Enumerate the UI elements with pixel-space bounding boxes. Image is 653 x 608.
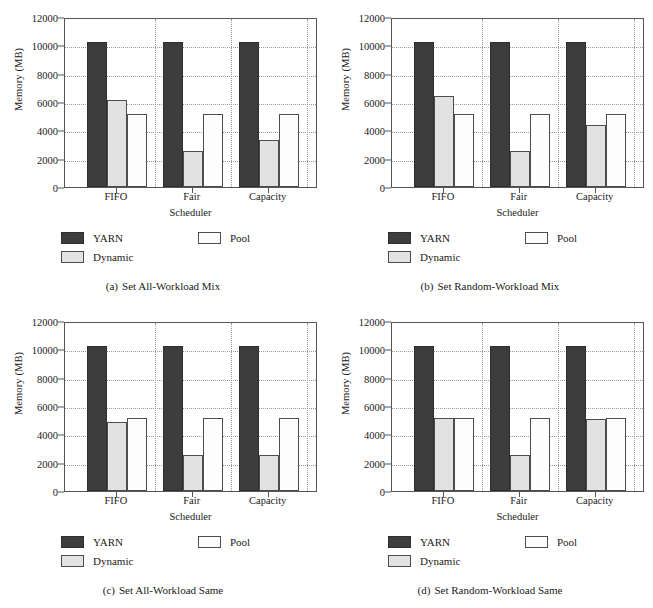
bar-c-fifo-pool	[127, 418, 147, 491]
bar-c-fifo-dynamic	[107, 422, 127, 491]
plot-area-a: Memory (MB)020004000600080001000012000FI…	[0, 0, 326, 212]
y-tick-label: 4000	[325, 430, 385, 441]
y-tick-mark	[385, 322, 391, 323]
bar-a-fifo-yarn	[87, 42, 107, 187]
legend-label-dynamic: Dynamic	[420, 555, 460, 567]
chart-panel-b: Memory (MB)020004000600080001000012000FI…	[327, 0, 653, 304]
y-tick-label: 4000	[0, 430, 58, 441]
legend-label-yarn: YARN	[93, 536, 123, 548]
bar-c-fair-pool	[203, 418, 223, 491]
x-tick-label-fifo: FIFO	[76, 191, 156, 202]
y-tick-label: 6000	[0, 402, 58, 413]
legend-label-dynamic: Dynamic	[93, 251, 133, 263]
bar-d-fifo-yarn	[414, 346, 434, 491]
y-tick-mark	[385, 188, 391, 189]
y-tick-mark	[58, 103, 64, 104]
y-tick-mark	[58, 463, 64, 464]
bar-d-fair-pool	[530, 418, 550, 491]
y-tick-mark	[58, 407, 64, 408]
y-tick-mark	[385, 378, 391, 379]
y-tick-label: 2000	[325, 458, 385, 469]
bar-b-fifo-yarn	[414, 42, 434, 187]
bar-d-capacity-pool	[606, 418, 626, 491]
y-tick-mark	[58, 46, 64, 47]
y-tick-label: 4000	[0, 126, 58, 137]
legend-item-dynamic: Dynamic	[388, 251, 460, 263]
y-tick-label: 4000	[325, 126, 385, 137]
legend-item-yarn: YARN	[61, 232, 123, 244]
x-gridline	[155, 19, 156, 187]
figure-four-panel-bar-charts: Memory (MB)020004000600080001000012000FI…	[0, 0, 653, 608]
y-tick-mark	[385, 46, 391, 47]
legend-item-pool: Pool	[198, 232, 250, 244]
legend-item-yarn: YARN	[388, 536, 450, 548]
legend-label-pool: Pool	[230, 232, 250, 244]
caption-text-b: Set Random-Workload Mix	[437, 280, 559, 292]
legend-item-dynamic: Dynamic	[61, 251, 133, 263]
y-tick-label: 12000	[0, 13, 58, 24]
x-tick-label-fifo: FIFO	[403, 495, 483, 506]
plot-frame-a	[64, 18, 317, 188]
bar-a-fair-pool	[203, 114, 223, 187]
legend-swatch-yarn	[388, 536, 411, 548]
x-tick-label-fair: Fair	[152, 495, 232, 506]
bar-c-fair-yarn	[163, 346, 183, 491]
x-axis-label-a: Scheduler	[64, 207, 317, 218]
bar-b-capacity-dynamic	[586, 125, 606, 187]
bar-b-fifo-pool	[454, 114, 474, 187]
x-gridline	[634, 19, 635, 187]
legend-item-yarn: YARN	[388, 232, 450, 244]
bar-c-capacity-pool	[279, 418, 299, 491]
y-tick-mark	[58, 74, 64, 75]
plot-frame-d	[391, 322, 644, 492]
bar-a-capacity-yarn	[239, 42, 259, 187]
legend-swatch-pool	[198, 536, 221, 548]
y-tick-label: 6000	[0, 98, 58, 109]
y-tick-mark	[58, 378, 64, 379]
y-tick-label: 10000	[325, 41, 385, 52]
legend-c: YARNPoolDynamic	[0, 536, 326, 580]
bar-d-fair-yarn	[490, 346, 510, 491]
plot-area-b: Memory (MB)020004000600080001000012000FI…	[327, 0, 653, 212]
legend-swatch-yarn	[388, 232, 411, 244]
caption-tag-b: (b)	[421, 280, 434, 292]
y-tick-mark	[385, 463, 391, 464]
y-tick-label: 8000	[0, 69, 58, 80]
bar-d-fifo-pool	[454, 418, 474, 491]
legend-swatch-dynamic	[388, 251, 411, 263]
legend-swatch-yarn	[61, 536, 84, 548]
caption-text-a: Set All-Workload Mix	[122, 280, 220, 292]
x-gridline	[155, 323, 156, 491]
bar-d-fair-dynamic	[510, 455, 530, 491]
legend-label-pool: Pool	[557, 536, 577, 548]
x-gridline	[307, 323, 308, 491]
legend-b: YARNPoolDynamic	[327, 232, 653, 276]
y-tick-label: 12000	[325, 13, 385, 24]
bar-b-fifo-dynamic	[434, 96, 454, 187]
bar-c-fifo-yarn	[87, 346, 107, 491]
y-tick-mark	[58, 322, 64, 323]
caption-tag-d: (d)	[418, 584, 431, 596]
y-tick-label: 10000	[0, 41, 58, 52]
y-tick-label: 6000	[325, 98, 385, 109]
y-tick-mark	[385, 103, 391, 104]
caption-tag-a: (a)	[106, 280, 118, 292]
x-gridline	[231, 19, 232, 187]
panel-caption-b: (b)Set Random-Workload Mix	[327, 280, 653, 292]
legend-label-yarn: YARN	[420, 536, 450, 548]
y-tick-label: 0	[0, 487, 58, 498]
y-tick-label: 6000	[325, 402, 385, 413]
y-tick-mark	[385, 407, 391, 408]
plot-area-c: Memory (MB)020004000600080001000012000FI…	[0, 304, 326, 516]
y-tick-mark	[58, 350, 64, 351]
legend-swatch-yarn	[61, 232, 84, 244]
x-axis-label-b: Scheduler	[391, 207, 644, 218]
y-tick-label: 8000	[0, 373, 58, 384]
plot-area-d: Memory (MB)020004000600080001000012000FI…	[327, 304, 653, 516]
x-tick-label-capacity: Capacity	[555, 495, 635, 506]
legend-a: YARNPoolDynamic	[0, 232, 326, 276]
x-gridline	[482, 19, 483, 187]
y-tick-label: 0	[325, 487, 385, 498]
chart-panel-c: Memory (MB)020004000600080001000012000FI…	[0, 304, 326, 608]
legend-swatch-dynamic	[61, 555, 84, 567]
